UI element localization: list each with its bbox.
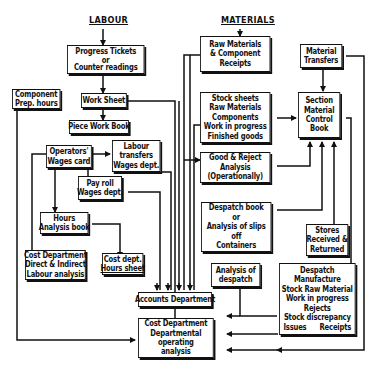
analysis-despatch-box: Analysis of despatch — [211, 263, 260, 287]
cost-dept-labour-box: Cost Department Direct & Indirect Labour… — [25, 250, 86, 280]
accounts-department-box: Accounts Department — [138, 292, 212, 307]
hours-analysis-box: Hours Analysis book — [40, 212, 88, 234]
raw-materials-box: Raw Materials & Component Receipts — [200, 36, 270, 72]
despatch-manufacture-box: Despatch Manufacture Stock Raw Material … — [279, 263, 356, 335]
operators-wages-box: Operators' Wages card — [46, 145, 92, 168]
issues-receipts-row: Issues Receipts — [280, 323, 355, 332]
material-transfers-box: Material Transfers — [300, 44, 342, 68]
cost-dept-hours-box: Cost dept. Hours sheet — [102, 253, 143, 275]
labour-heading: LABOUR — [89, 15, 128, 25]
labour-transfers-box: Labour transfers Wages dept. — [112, 140, 160, 172]
despatch-book-box: Despatch book or Analysis of slips off C… — [201, 202, 271, 252]
good-reject-box: Good & Reject Analysis (Operationally) — [200, 152, 270, 183]
piece-work-book-box: Piece Work Book — [69, 120, 129, 134]
work-sheet-box: Work Sheet — [81, 93, 127, 108]
pay-roll-box: Pay roll Wages dept. — [78, 176, 122, 200]
progress-tickets-box: Progress Tickets or Counter readings — [67, 45, 144, 74]
cost-dept-operating-box: Cost Department Departmental operating a… — [138, 318, 214, 358]
section-control-box: Section Material Control Book — [298, 92, 340, 138]
materials-heading: MATERIALS — [221, 15, 275, 25]
stores-received-box: Stores Received & Returned — [306, 224, 348, 256]
stock-sheets-box: Stock sheets Raw Materials Components Wo… — [200, 92, 270, 143]
component-prep-box: Component Prep. hours — [12, 89, 60, 109]
